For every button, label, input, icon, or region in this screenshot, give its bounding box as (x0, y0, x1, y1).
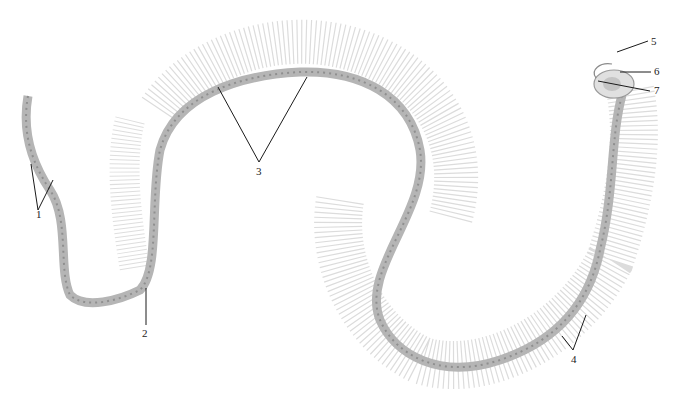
skeleton-illustration (0, 0, 681, 410)
vertebral-column (26, 72, 622, 367)
label-2: 2 (142, 328, 148, 339)
skull (594, 64, 634, 98)
leader-lines (31, 41, 651, 350)
label-1: 1 (36, 209, 42, 220)
label-3: 3 (256, 166, 262, 177)
label-7: 7 (654, 85, 660, 96)
snake-skeleton-figure: 1 2 3 4 5 6 7 (0, 0, 681, 410)
label-5: 5 (651, 36, 657, 47)
label-4: 4 (571, 354, 577, 365)
label-6: 6 (654, 66, 660, 77)
